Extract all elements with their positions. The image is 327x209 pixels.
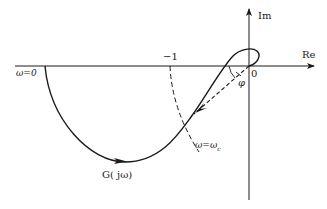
nyquist-diagram [0,0,327,209]
minus-one-label: −1 [163,52,178,62]
crossover-vector [194,66,249,114]
origin-label: 0 [251,69,257,79]
phase-angle-arc [229,66,235,78]
imag-axis-label: Im [258,11,271,21]
omega-zero-label: ω=0 [16,69,37,78]
phase-angle-label: φ [238,78,245,88]
real-axis-label: Re [302,50,315,60]
omega-crossover-label: ω=ωc [195,141,221,152]
curve-name-label: G( jω) [102,170,132,180]
